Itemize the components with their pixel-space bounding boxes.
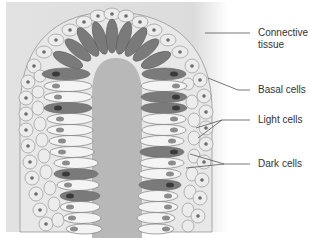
label-light-cells-text: Light cells [258, 114, 302, 125]
label-basal-cells: Basal cells [258, 84, 306, 96]
label-connective-tissue: Connective tissue [258, 27, 308, 51]
lumen [92, 58, 142, 238]
label-basal-cells-text: Basal cells [258, 84, 306, 95]
label-dark-cells: Dark cells [258, 158, 302, 170]
label-connective-tissue-line1: Connective [258, 27, 308, 39]
label-light-cells: Light cells [258, 114, 302, 126]
label-dark-cells-text: Dark cells [258, 158, 302, 169]
label-connective-tissue-line2: tissue [258, 39, 308, 51]
